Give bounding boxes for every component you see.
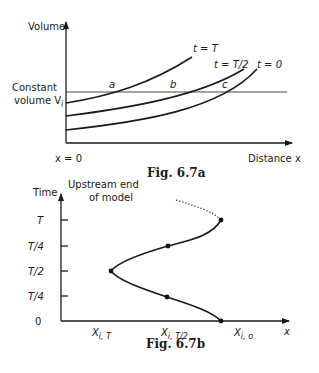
point-b-label: b — [170, 79, 176, 90]
point-a-label: a — [109, 79, 115, 90]
figure-b: T T/4 T/2 T/4 0 Time Upstream end of mod… — [28, 179, 290, 351]
tick-label-T-quarter-lower: T/4 — [28, 291, 44, 302]
volume-axis-label: Volume — [28, 21, 65, 32]
curve-label-t-0: t = 0 — [257, 59, 282, 70]
curve-label-t-T: t = T — [193, 43, 219, 54]
time-axis-label: Time — [32, 187, 57, 198]
x-label-Xi-T: Xi, T — [91, 327, 112, 341]
figure-a: Volume Constant volume Vi a b c t = T t … — [12, 21, 301, 180]
point-time-T-quarter-lower — [165, 295, 170, 300]
curve-label-t-T-half: t = T/2 — [214, 59, 249, 70]
tick-label-T-half: T/2 — [28, 266, 44, 277]
caption-fig-6-7b: Fig. 6.7b — [146, 337, 205, 351]
boundary-trajectory-curve — [111, 220, 221, 321]
figure-6-7: Volume Constant volume Vi a b c t = T t … — [0, 0, 319, 373]
distance-axis-label: Distance x — [248, 153, 301, 164]
tick-label-T-quarter-upper: T/4 — [28, 241, 44, 252]
tick-label-T: T — [37, 215, 44, 226]
point-time-T — [219, 218, 224, 223]
upstream-annotation-line1: Upstream end — [68, 179, 139, 190]
point-time-0 — [219, 319, 224, 324]
curve-t-equals-T-half — [66, 69, 244, 116]
x-axis-label: x — [283, 326, 290, 337]
x-label-Xi-0: Xi, o — [233, 327, 253, 341]
constant-label-line2: volume Vi — [14, 95, 64, 109]
upstream-dotted-curve — [176, 200, 221, 220]
tick-label-zero: 0 — [35, 316, 41, 327]
constant-label-line1: Constant — [12, 82, 57, 93]
point-time-T-quarter-upper — [166, 244, 171, 249]
caption-fig-6-7a: Fig. 6.7a — [147, 166, 206, 180]
upstream-annotation-line2: of model — [89, 192, 133, 203]
point-c-label: c — [222, 79, 228, 90]
origin-label: x = 0 — [55, 153, 82, 164]
point-time-T-half — [109, 269, 114, 274]
